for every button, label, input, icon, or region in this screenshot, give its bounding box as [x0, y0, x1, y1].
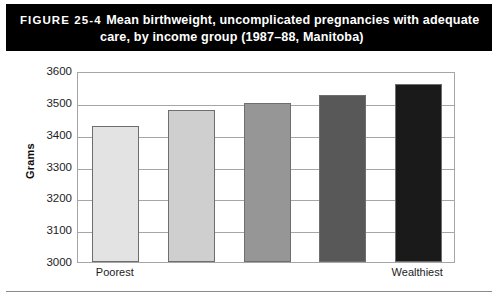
- bar-1: [92, 126, 139, 262]
- y-tick-label-3400: 3400: [46, 130, 72, 142]
- y-axis-tick-labels: 3600350034003300320031003000: [6, 72, 72, 263]
- figure-number-label: FIGURE 25-4: [20, 14, 102, 26]
- bar-5: [395, 84, 442, 262]
- figure-title-line-2: care, by income group (1987–88, Manitoba…: [20, 29, 478, 46]
- figure-container: FIGURE 25-4 Mean birthweight, uncomplica…: [0, 0, 498, 296]
- y-tick-label-3200: 3200: [46, 193, 72, 205]
- figure-title-line-1: Mean birthweight, uncomplicated pregnanc…: [106, 13, 479, 27]
- figure-title-inner: FIGURE 25-4 Mean birthweight, uncomplica…: [20, 10, 478, 46]
- y-tick-label-3500: 3500: [46, 98, 72, 110]
- figure-bottom-rule: [6, 291, 492, 292]
- y-tick-label-3600: 3600: [46, 66, 72, 78]
- plot-area: [77, 72, 455, 263]
- bar-2: [168, 110, 215, 262]
- bar-3: [244, 103, 291, 262]
- y-tick-label-3300: 3300: [46, 162, 72, 174]
- x-tick-label-wealthiest: Wealthiest: [380, 266, 455, 278]
- y-tick-label-3100: 3100: [46, 225, 72, 237]
- bar-4: [319, 95, 366, 262]
- chart-body: Grams 3600350034003300320031003000 Poore…: [6, 51, 492, 290]
- figure-title-banner: FIGURE 25-4 Mean birthweight, uncomplica…: [6, 4, 492, 51]
- y-tick-label-3000: 3000: [46, 257, 72, 269]
- x-tick-label-poorest: Poorest: [77, 266, 152, 278]
